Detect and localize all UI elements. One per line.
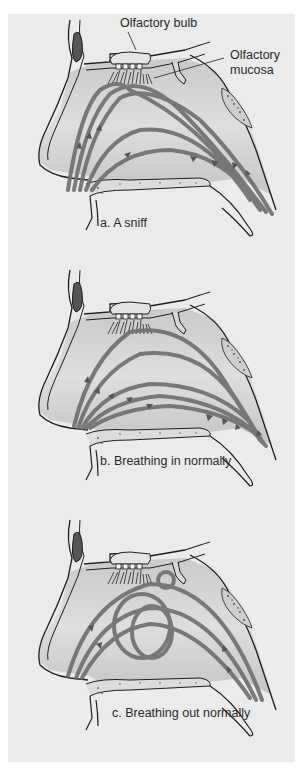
olfactory-bulb-label: Olfactory bulb — [120, 16, 197, 30]
caption-c: c. Breathing out normally — [112, 706, 250, 720]
caption-a: a. A sniff — [100, 216, 147, 230]
olfactory-mucosa-label-line2: mucosa — [230, 63, 274, 77]
panel-a-sniff: Olfactory bulb Olfactory mucosa a. A sni… — [0, 0, 306, 250]
panel-b-breathing-in: b. Breathing in normally — [0, 250, 306, 500]
nasal-cavity-diagram-a — [0, 0, 306, 250]
panel-c-breathing-out: c. Breathing out normally — [0, 500, 306, 750]
olfactory-mucosa-label-line1: Olfactory — [230, 48, 280, 62]
caption-b: b. Breathing in normally — [100, 454, 231, 468]
